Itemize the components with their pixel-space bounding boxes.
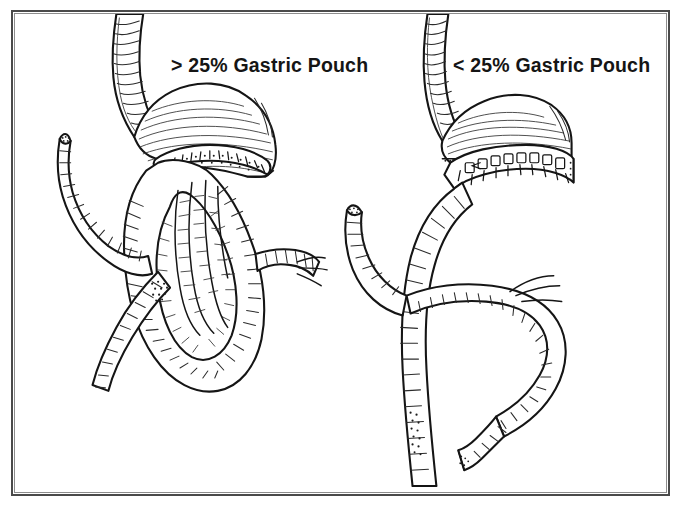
illustration-page: .ol { fill:#ffffff; stroke:#151515; stro… — [0, 0, 685, 520]
panel-label-small-pouch: < 25% Gastric Pouch — [453, 54, 650, 77]
panel-label-large-pouch: > 25% Gastric Pouch — [171, 54, 368, 77]
roux-limb-right — [401, 183, 473, 486]
distal-bowel-left — [256, 249, 328, 285]
afferent-limb-right — [345, 205, 406, 315]
anatomy-drawing-canvas: .ol { fill:#ffffff; stroke:#151515; stro… — [13, 12, 668, 494]
distal-bowel-right — [458, 417, 506, 471]
right-panel-anatomy — [345, 14, 573, 486]
figure-frame: .ol { fill:#ffffff; stroke:#151515; stro… — [11, 10, 670, 496]
